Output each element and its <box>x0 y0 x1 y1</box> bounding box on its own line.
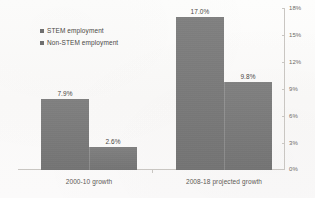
bar-non-stem-2008-18[interactable] <box>224 82 272 170</box>
legend-swatch-icon <box>40 41 44 45</box>
y-axis-label-6: 6% <box>289 113 298 120</box>
bar-non-stem-2000-10[interactable] <box>89 147 137 170</box>
y-axis-label-15: 15% <box>289 32 301 39</box>
y-axis-label-9: 9% <box>289 86 298 93</box>
y-tick-mark-12 <box>282 62 285 63</box>
y-tick-mark-9 <box>282 89 285 90</box>
y-axis-label-12: 12% <box>289 59 301 66</box>
y-tick-mark-3 <box>282 143 285 144</box>
axis-group-divider-tick <box>152 170 153 173</box>
legend-swatch-icon <box>40 29 44 33</box>
y-tick-mark-18 <box>282 8 285 9</box>
y-axis-label-18: 18% <box>289 5 301 12</box>
data-label-stem-2008-18: 17.0% <box>176 8 224 16</box>
y-tick-mark-0 <box>282 169 285 170</box>
y-axis-label-0: 0% <box>289 166 298 173</box>
y-axis-label-3: 3% <box>289 140 298 147</box>
category-label-2008-18: 2008-18 projected growth <box>154 178 294 186</box>
legend-label-non-stem-employment: Non-STEM employment <box>47 39 118 47</box>
legend-item-stem-employment[interactable]: STEM employment <box>40 27 118 35</box>
legend-label-stem-employment: STEM employment <box>47 27 104 35</box>
legend-item-non-stem-employment[interactable]: Non-STEM employment <box>40 39 118 47</box>
data-label-stem-2000-10: 7.9% <box>41 90 89 98</box>
data-label-non-stem-2000-10: 2.6% <box>89 138 137 146</box>
bar-chart: 7.9% 2.6% 17.0% 9.8% 18% 15% 12% 9% 6% 3… <box>0 0 315 198</box>
bar-stem-2008-18[interactable] <box>176 17 224 170</box>
y-tick-mark-6 <box>282 116 285 117</box>
y-tick-mark-15 <box>282 35 285 36</box>
legend: STEM employment Non-STEM employment <box>40 27 118 51</box>
category-label-2000-10: 2000-10 growth <box>19 178 159 186</box>
y-axis-label-group: 18% 15% 12% 9% 6% 3% 0% <box>289 8 315 170</box>
data-label-non-stem-2008-18: 9.8% <box>224 73 272 81</box>
bar-stem-2000-10[interactable] <box>41 99 89 170</box>
